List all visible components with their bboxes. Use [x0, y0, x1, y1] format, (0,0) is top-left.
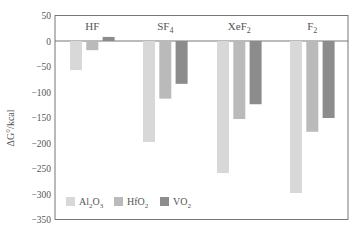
bars: [70, 37, 335, 193]
category-labels: HFSF4XeF2F2: [85, 20, 317, 35]
y-tick-label: −150: [31, 113, 51, 123]
bar-chart: 500−50−100−150−200−250−300−350 HFSF4XeF2…: [0, 0, 358, 237]
y-axis: 500−50−100−150−200−250−300−350: [31, 11, 51, 225]
legend-label-hfo2: HfO2: [127, 196, 149, 210]
category-label: SF4: [157, 20, 173, 35]
bar-vo2-f2: [323, 41, 335, 118]
category-label: F2: [307, 20, 317, 35]
plot-frame: [55, 16, 348, 220]
bar-al2o3-xef2: [217, 41, 229, 173]
y-tick-label: −250: [31, 164, 51, 174]
legend-swatch-al2o3: [66, 197, 75, 206]
y-tick-label: 0: [46, 37, 51, 47]
y-tick-label: −350: [31, 215, 51, 225]
y-tick-label: −100: [31, 88, 51, 98]
bar-hfo2-sf4: [159, 41, 171, 99]
bar-hfo2-f2: [306, 41, 318, 132]
legend-swatch-vo2: [160, 197, 169, 206]
bar-hfo2-xef2: [233, 41, 245, 119]
legend-label-vo2: VO2: [173, 196, 191, 210]
bar-vo2-hf: [103, 37, 115, 41]
legend-swatch-hfo2: [114, 197, 123, 206]
category-label: XeF2: [228, 20, 251, 35]
category-label: HF: [85, 20, 99, 32]
bar-al2o3-hf: [70, 41, 82, 70]
y-tick-label: 50: [42, 11, 52, 21]
plot-border: [55, 16, 348, 220]
y-tick-label: −300: [31, 190, 51, 200]
bar-hfo2-hf: [86, 41, 98, 50]
bar-al2o3-f2: [290, 41, 302, 193]
bar-al2o3-sf4: [143, 41, 155, 142]
bar-vo2-xef2: [250, 41, 262, 104]
legend: Al2O3HfO2VO2: [66, 196, 191, 210]
y-axis-label: ΔG°/kcal: [5, 109, 16, 146]
y-tick-label: −50: [36, 62, 51, 72]
bar-vo2-sf4: [176, 41, 188, 84]
legend-label-al2o3: Al2O3: [79, 196, 104, 210]
y-tick-label: −200: [31, 139, 51, 149]
